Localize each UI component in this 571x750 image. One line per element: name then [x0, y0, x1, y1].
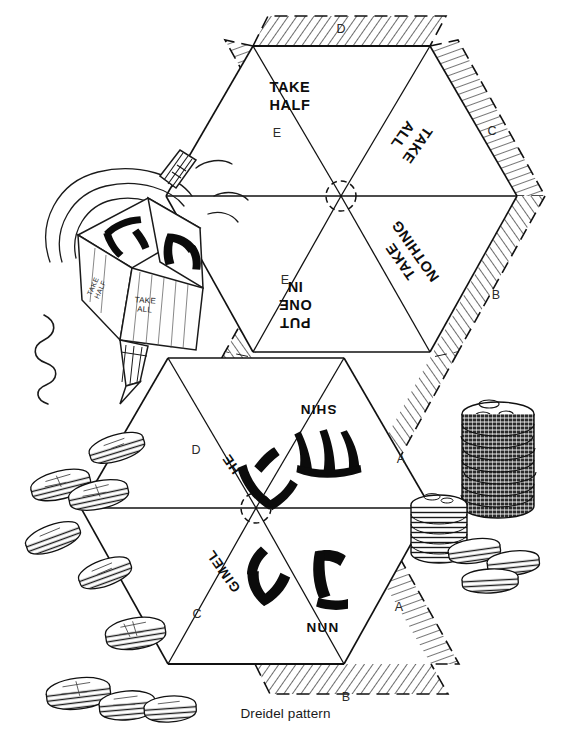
dreidel-face-text: TAKE ALL — [121, 294, 168, 316]
tab-label-b-mid: B — [487, 288, 505, 304]
face-label-take-half: TAKE HALF — [240, 78, 340, 114]
tab-label-a-lower: A — [390, 600, 408, 616]
tab-label-a-upper: A — [392, 452, 410, 468]
face-label-shin: SHIN — [278, 400, 358, 417]
tab-label-c-upper: C — [483, 124, 501, 140]
loose-coins-right — [447, 535, 540, 594]
tab-label-d-top: D — [332, 22, 350, 38]
face-label-put-one-in: PUT ONE IN — [245, 278, 345, 332]
tab-label-e-upper: E — [268, 126, 286, 142]
coin-stack-tall — [461, 400, 536, 518]
face-label-nun: NUN — [288, 620, 358, 637]
tab-label-b-bottom: B — [337, 690, 355, 706]
tab-label-c-lower: C — [188, 607, 206, 623]
figure-canvas: TAKE HALF TAKE ALL PUT ONE IN TAKE NOTHI… — [0, 0, 571, 750]
tab-label-d-lower: D — [187, 443, 205, 459]
tab-label-e-mid: E — [276, 273, 294, 289]
figure-caption: Dreidel pattern — [0, 706, 571, 721]
